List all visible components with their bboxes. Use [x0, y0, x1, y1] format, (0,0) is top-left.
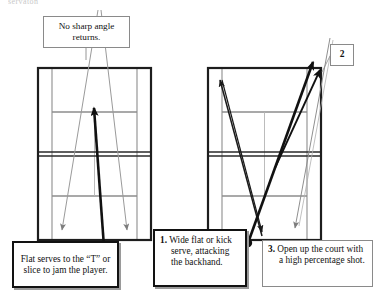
callout-step-three-number: 3.: [268, 244, 275, 254]
callout-step-three-text: Open up the court with a high percentage…: [277, 244, 364, 265]
callout-step-one-text: Wide flat or kick serve, attacking the b…: [169, 235, 232, 267]
callout-flat-serves: Flat serves to the “T” or slice to jam t…: [12, 241, 119, 288]
callout-step-three-body: 3. Open up the court with a high percent…: [268, 244, 369, 266]
callout-no-sharp-angle-text: No sharp angle returns.: [47, 21, 126, 42]
callout-no-sharp-angle: No sharp angle returns.: [43, 16, 130, 48]
callout-step-one: 1. Wide flat or kick serve, attacking th…: [153, 229, 247, 287]
callout-step-three: 3. Open up the court with a high percent…: [262, 240, 373, 287]
callout-step-two-number: 2: [340, 49, 345, 60]
callout-step-two: 2: [330, 44, 354, 66]
callout-flat-serves-text: Flat serves to the “T” or slice to jam t…: [16, 254, 115, 276]
callout-step-one-body: 1. Wide flat or kick serve, attacking th…: [160, 235, 241, 267]
right-court: [208, 38, 333, 247]
diagram-canvas: servaton: [0, 0, 378, 299]
callout-step-one-number: 1.: [160, 235, 167, 245]
